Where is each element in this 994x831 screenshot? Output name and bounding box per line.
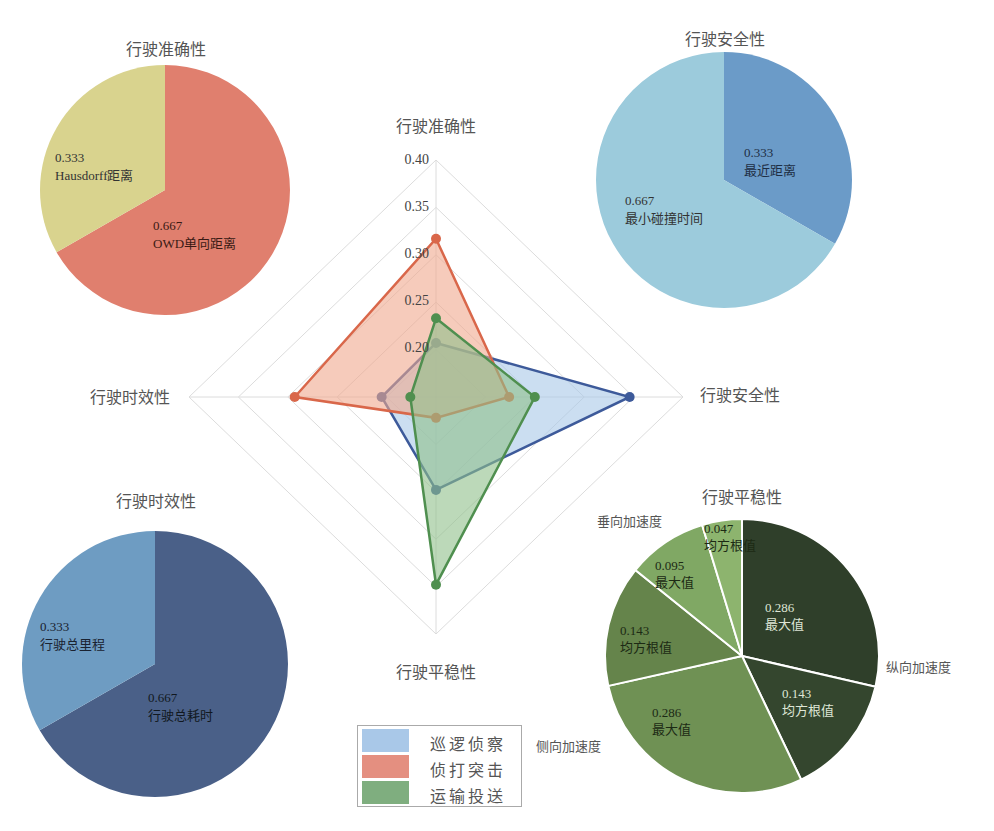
legend: 巡逻侦察 侦打突击 运输投送 [357,725,522,807]
pie-safety-label-ttc: 最小碰撞时间 [625,211,703,226]
pie-efficiency-title: 行驶时效性 [116,492,196,511]
pie-stability-value-long-max: 0.286 [765,600,795,615]
tick-0.35: 0.35 [405,199,430,214]
pie-stability-value-vert-max: 0.095 [655,558,684,573]
pie-safety-value-nearest: 0.333 [744,145,773,160]
legend-swatch-patrol [362,729,409,752]
chart-canvas: 行驶准确性 行驶安全性 行驶平稳性 行驶时效性 0.20 0.25 0.30 0… [0,0,994,831]
pie-accuracy-label-owd: OWD单向距离 [153,236,236,251]
pie-stability-group-longitudinal: 纵向加速度 [886,660,951,675]
pie-efficiency [22,531,288,797]
pie-stability-label-lat-rms: 均方根值 [620,640,672,655]
radar-axis-stability: 行驶平稳性 [396,663,476,682]
legend-label-patrol: 巡逻侦察 [430,731,506,755]
pie-accuracy-value-hausdorff: 0.333 [55,150,84,165]
radar-point [290,392,300,402]
radar-point [530,392,540,402]
tick-0.25: 0.25 [405,293,430,308]
pie-stability-label-vert-rms: 均方根值 [704,538,756,553]
radar-series [290,234,635,590]
radar-axis-efficiency: 行驶时效性 [90,388,170,407]
radar-point [431,313,441,323]
tick-0.20: 0.20 [405,340,430,355]
pie-stability-label-lat-max: 最大值 [652,722,691,737]
pie-stability [605,519,879,793]
legend-label-assault: 侦打突击 [430,757,506,781]
pie-efficiency-value-distance: 0.333 [40,619,69,634]
pie-stability-value-vert-rms: 0.047 [704,521,734,536]
pie-accuracy-value-owd: 0.667 [153,218,183,233]
legend-label-transport: 运输投送 [430,783,506,807]
pie-safety-title: 行驶安全性 [685,30,765,49]
legend-item-transport: 运输投送 [362,781,517,805]
pie-accuracy-title: 行驶准确性 [126,40,206,59]
pie-stability-title: 行驶平稳性 [702,488,782,507]
tick-0.40: 0.40 [405,152,430,167]
legend-item-patrol: 巡逻侦察 [362,729,517,753]
pie-accuracy [40,65,290,315]
pie-efficiency-label-distance: 行驶总里程 [40,637,105,652]
pie-stability-label-long-rms: 均方根值 [782,703,834,718]
radar-axis-safety: 行驶安全性 [700,386,780,405]
pie-efficiency-label-time: 行驶总耗时 [148,708,213,723]
pie-stability-label-vert-max: 最大值 [655,575,694,590]
pie-stability-value-long-rms: 0.143 [782,686,811,701]
pie-safety [596,52,852,308]
radar-axis-accuracy: 行驶准确性 [396,117,476,136]
radar-point [431,234,441,244]
pie-safety-label-nearest: 最近距离 [744,163,796,178]
legend-swatch-transport [362,781,409,804]
pie-safety-value-ttc: 0.667 [625,193,655,208]
pie-stability-label-long-max: 最大值 [765,617,804,632]
pie-stability-group-lateral: 侧向加速度 [536,739,601,754]
pie-stability-value-lat-max: 0.286 [652,705,682,720]
legend-item-assault: 侦打突击 [362,755,517,779]
pie-stability-group-vertical: 垂向加速度 [597,514,662,529]
legend-swatch-assault [362,755,409,778]
pie-efficiency-value-time: 0.667 [148,690,178,705]
radar-point [431,580,441,590]
radar-point [625,392,635,402]
radar-point [405,392,415,402]
pie-accuracy-label-hausdorff: Hausdorff距离 [55,168,133,183]
pie-stability-value-lat-rms: 0.143 [620,623,649,638]
tick-0.30: 0.30 [405,246,430,261]
